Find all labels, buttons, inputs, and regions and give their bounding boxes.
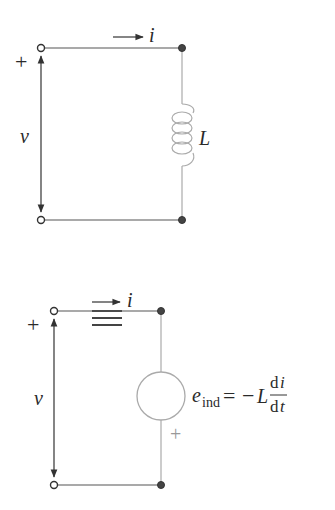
top-node-upper: [179, 45, 186, 52]
source-plus-sign: +: [170, 423, 181, 445]
fraction-denominator-d: d: [270, 397, 279, 416]
induced-emf-source-icon: [137, 372, 185, 420]
emf-coefficient: L: [256, 385, 268, 407]
bottom-plus-sign: +: [27, 312, 39, 337]
bottom-terminal-open-upper: [51, 308, 58, 315]
bottom-node-lower: [158, 482, 165, 489]
top-terminal-open-upper: [38, 45, 45, 52]
bottom-terminal-open-lower: [51, 482, 58, 489]
top-node-lower: [179, 217, 186, 224]
fraction-numerator-var: i: [280, 373, 285, 392]
fraction-numerator-d: d: [270, 373, 279, 392]
emf-minus: −: [242, 383, 254, 408]
inductor-equivalence-diagram: L v + i ≡ + e ind = −: [0, 0, 335, 510]
emf-symbol: e: [192, 384, 201, 406]
top-circuit: L v + i: [15, 24, 210, 224]
emf-equals: =: [223, 383, 235, 408]
top-voltage-label: v: [20, 125, 29, 147]
bottom-current-label: i: [127, 289, 133, 311]
top-plus-sign: +: [15, 49, 27, 74]
emf-subscript: ind: [202, 395, 220, 410]
bottom-node-upper: [158, 308, 165, 315]
equivalence-sign-icon: [92, 311, 122, 325]
bottom-voltage-label: v: [34, 387, 43, 409]
emf-equation: e ind = − L d i d t: [192, 373, 287, 416]
fraction-denominator-var: t: [280, 397, 286, 416]
inductor-coil-icon: [172, 104, 194, 166]
top-current-label: i: [149, 24, 155, 46]
top-terminal-open-lower: [38, 217, 45, 224]
inductor-label: L: [198, 127, 210, 149]
bottom-circuit: + e ind = − L d i d t v + i: [27, 289, 287, 489]
